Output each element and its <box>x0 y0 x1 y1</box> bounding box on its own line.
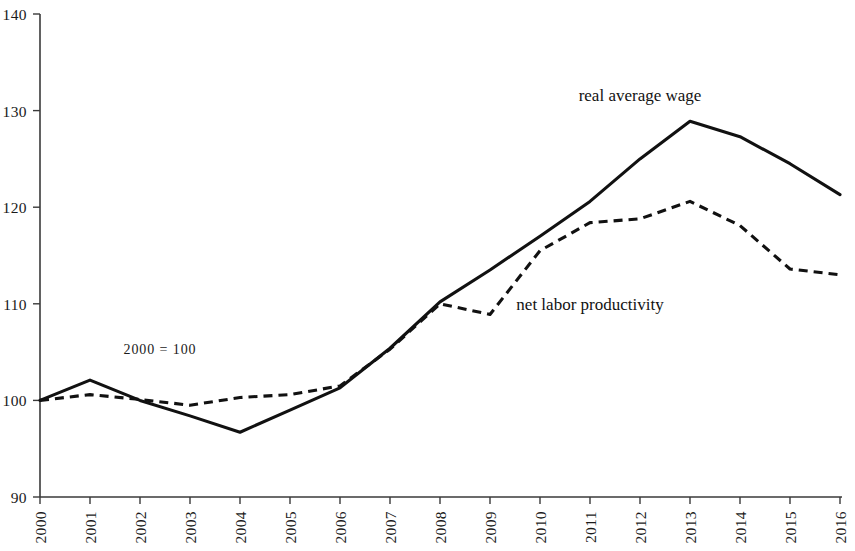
series-label: real average wage <box>579 86 702 105</box>
x-axis-ticks: 2000200120022003200420052006200720082009… <box>32 497 849 544</box>
x-tick-label: 2015 <box>782 511 799 544</box>
x-tick-label: 2004 <box>232 511 249 544</box>
chart-axes <box>40 14 842 497</box>
x-tick-label: 2014 <box>732 511 749 544</box>
series-line-solid <box>40 121 840 432</box>
x-tick-label: 2012 <box>632 511 649 544</box>
x-tick-label: 2011 <box>582 511 599 543</box>
x-tick-label: 2003 <box>182 511 199 544</box>
series-labels-group: real average wagenet labor productivity <box>516 86 701 314</box>
x-tick-label: 2005 <box>282 511 299 544</box>
x-tick-label: 2008 <box>432 511 449 544</box>
x-tick-label: 2010 <box>532 511 549 544</box>
y-axis-ticks: 90100110120130140 <box>3 6 40 506</box>
x-tick-label: 2000 <box>32 511 49 544</box>
x-tick-label: 2009 <box>482 511 499 544</box>
x-tick-label: 2007 <box>382 511 399 544</box>
y-tick-label: 130 <box>3 103 27 120</box>
y-tick-label: 90 <box>11 489 27 506</box>
base-year-annotation: 2000 = 100 <box>124 342 197 357</box>
y-tick-label: 100 <box>3 392 27 409</box>
x-tick-label: 2002 <box>132 511 149 544</box>
x-tick-label: 2016 <box>832 511 849 544</box>
chart-container: 90100110120130140 2000200120022003200420… <box>0 0 855 551</box>
x-tick-label: 2001 <box>82 511 99 544</box>
x-tick-label: 2013 <box>682 511 699 544</box>
base-year-annotation-group: 2000 = 100 <box>124 342 197 357</box>
y-tick-label: 120 <box>3 199 27 216</box>
series-label: net labor productivity <box>516 295 664 314</box>
y-tick-label: 110 <box>3 296 27 313</box>
x-tick-label: 2006 <box>332 511 349 544</box>
data-series-group <box>40 121 840 432</box>
y-tick-label: 140 <box>3 6 27 23</box>
line-chart: 90100110120130140 2000200120022003200420… <box>0 0 855 551</box>
